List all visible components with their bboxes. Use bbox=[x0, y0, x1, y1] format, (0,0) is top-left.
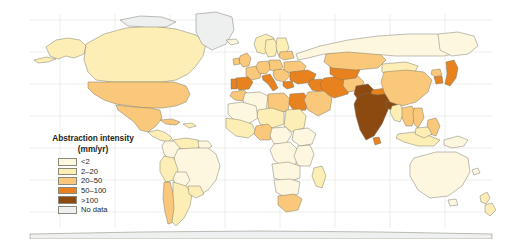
legend-swatch-icon bbox=[58, 206, 77, 214]
legend-title: Abstraction intensity bbox=[34, 133, 152, 144]
legend-label: >100 bbox=[81, 196, 98, 205]
legend-item[interactable]: 50–100 bbox=[58, 186, 152, 196]
legend-rows: <2 2–20 20–50 50–100 >100 No data bbox=[58, 157, 152, 215]
legend-label: <2 bbox=[81, 157, 90, 166]
legend-swatch-icon bbox=[58, 196, 77, 204]
legend-label: 2–20 bbox=[81, 167, 98, 176]
legend-swatch-icon bbox=[58, 168, 77, 176]
world-map-figure: .c { stroke: #6f6f63; stroke-width: 0.45… bbox=[0, 0, 512, 239]
country-portugal bbox=[231, 79, 237, 89]
legend-label: 20–50 bbox=[81, 176, 102, 185]
legend-label: No data bbox=[81, 205, 108, 214]
country-kenya-tanzania bbox=[294, 145, 314, 166]
legend-swatch-icon bbox=[58, 177, 77, 185]
map-legend: Abstraction intensity (mm/yr) <2 2–20 20… bbox=[34, 133, 152, 215]
country-tasmania bbox=[448, 199, 458, 206]
legend-units: (mm/yr) bbox=[34, 144, 152, 155]
legend-swatch-icon bbox=[58, 187, 77, 195]
legend-item[interactable]: 2–20 bbox=[58, 167, 152, 177]
country-ireland bbox=[233, 58, 240, 65]
legend-item[interactable]: No data bbox=[58, 205, 152, 215]
legend-swatch-icon bbox=[58, 158, 77, 166]
legend-item[interactable]: >100 bbox=[58, 195, 152, 205]
legend-item[interactable]: 20–50 bbox=[58, 176, 152, 186]
legend-item[interactable]: <2 bbox=[58, 157, 152, 167]
legend-label: 50–100 bbox=[81, 186, 106, 195]
